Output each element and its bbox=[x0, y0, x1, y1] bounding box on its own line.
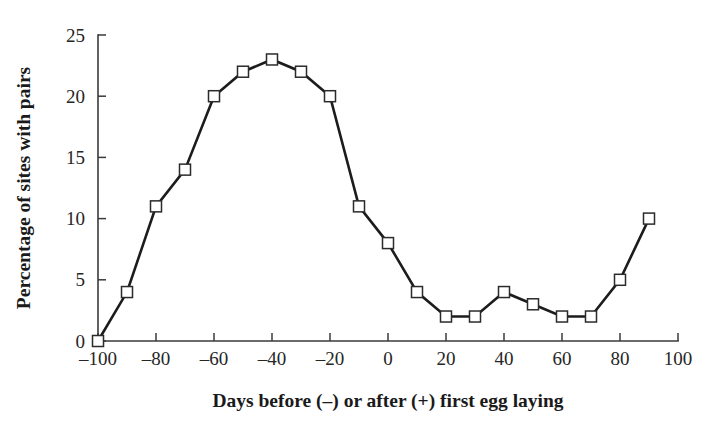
data-point-marker bbox=[267, 54, 278, 65]
data-point-marker bbox=[644, 213, 655, 224]
data-point-marker bbox=[93, 336, 104, 347]
data-point-marker bbox=[441, 311, 452, 322]
line-chart: –100–80–60–40–20020406080100 0510152025 … bbox=[0, 0, 715, 440]
x-tick-label: –60 bbox=[199, 348, 229, 369]
data-point-marker bbox=[528, 299, 539, 310]
data-point-marker bbox=[122, 287, 133, 298]
data-point-marker bbox=[499, 287, 510, 298]
plot-area: –100–80–60–40–20020406080100 0510152025 … bbox=[13, 25, 692, 413]
x-tick-label: 20 bbox=[437, 348, 456, 369]
y-tick-label: 5 bbox=[76, 269, 86, 290]
x-tick-label: 60 bbox=[553, 348, 572, 369]
y-axis-ticks bbox=[98, 35, 106, 341]
data-point-marker bbox=[586, 311, 597, 322]
x-tick-label: –80 bbox=[141, 348, 171, 369]
data-series-line bbox=[98, 59, 649, 341]
x-tick-label: –20 bbox=[315, 348, 345, 369]
y-axis-title: Percentage of sites with pairs bbox=[13, 66, 34, 309]
data-point-marker bbox=[151, 201, 162, 212]
data-point-marker bbox=[615, 274, 626, 285]
x-tick-label: 0 bbox=[383, 348, 393, 369]
y-tick-label: 0 bbox=[76, 331, 86, 352]
data-point-marker bbox=[354, 201, 365, 212]
y-axis-tick-labels: 0510152025 bbox=[66, 25, 85, 352]
x-tick-label: –40 bbox=[257, 348, 287, 369]
data-point-markers bbox=[93, 54, 655, 347]
data-point-marker bbox=[557, 311, 568, 322]
data-point-marker bbox=[412, 287, 423, 298]
x-axis-title: Days before (–) or after (+) first egg l… bbox=[212, 390, 563, 412]
x-tick-label: 100 bbox=[664, 348, 693, 369]
data-point-marker bbox=[470, 311, 481, 322]
data-point-marker bbox=[325, 91, 336, 102]
data-point-marker bbox=[209, 91, 220, 102]
data-point-marker bbox=[296, 66, 307, 77]
data-point-marker bbox=[238, 66, 249, 77]
figure-panel: –100–80–60–40–20020406080100 0510152025 … bbox=[0, 0, 715, 440]
x-tick-label: 80 bbox=[611, 348, 630, 369]
x-tick-label: 40 bbox=[495, 348, 514, 369]
data-point-marker bbox=[180, 164, 191, 175]
y-tick-label: 15 bbox=[66, 147, 85, 168]
y-tick-label: 10 bbox=[66, 208, 85, 229]
data-point-marker bbox=[383, 238, 394, 249]
x-axis-tick-labels: –100–80–60–40–20020406080100 bbox=[78, 348, 692, 369]
y-tick-label: 20 bbox=[66, 86, 85, 107]
y-tick-label: 25 bbox=[66, 25, 85, 46]
x-axis-ticks bbox=[98, 333, 678, 341]
axes bbox=[98, 35, 678, 341]
